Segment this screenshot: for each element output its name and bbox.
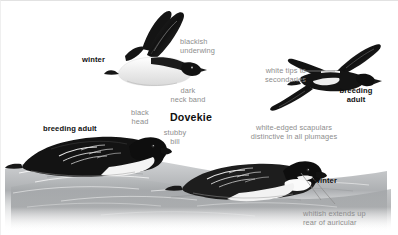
- annotation-blackish-underwing: blackish underwing: [180, 37, 215, 55]
- page-title: Dovekie: [170, 111, 212, 123]
- annotation-stubby-bill: stubby bill: [156, 128, 194, 146]
- label-breeding-adult-flying: breeding adult: [331, 86, 381, 104]
- annotation-black-head: black head: [121, 108, 159, 126]
- annotation-whitish-auricular: whitish extends up rear of auricular: [303, 209, 366, 227]
- annotation-white-edged-scapulars: white-edged scapulars distinctive in all…: [233, 123, 355, 141]
- label-winter-flying: winter: [82, 55, 105, 64]
- field-guide-plate: Dovekie winter breeding adult breeding a…: [0, 0, 398, 235]
- annotation-dark-neck-band: dark neck band: [155, 86, 221, 104]
- annotation-white-tips-to-secondaries: white tips to secondaries: [245, 66, 306, 84]
- label-breeding-adult-swimming: breeding adult: [43, 124, 97, 133]
- label-winter-swimming: winter: [314, 176, 337, 185]
